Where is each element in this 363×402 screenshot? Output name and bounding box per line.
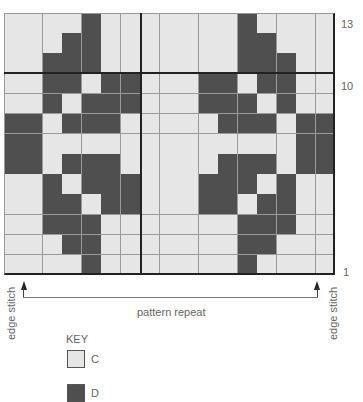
chart-cell — [4, 235, 24, 256]
chart-cell — [160, 73, 180, 94]
chart-cell — [238, 194, 258, 215]
chart-cell — [296, 154, 316, 175]
chart-cell — [121, 154, 141, 175]
chart-cell — [257, 255, 277, 276]
chart-cell — [316, 174, 336, 195]
chart-cell — [4, 13, 24, 34]
chart-cell — [23, 215, 43, 236]
chart-cell — [62, 53, 82, 74]
chart-cell — [82, 255, 102, 276]
chart-cell — [160, 33, 180, 54]
key-title: KEY — [66, 333, 88, 345]
chart-cell — [82, 235, 102, 256]
chart-cell — [140, 53, 160, 74]
chart-cell — [43, 194, 63, 215]
chart-cell — [4, 215, 24, 236]
chart-cell — [43, 33, 63, 54]
chart-cell — [23, 94, 43, 115]
chart-cell — [179, 134, 199, 155]
chart-cell — [82, 174, 102, 195]
chart-cell — [218, 255, 238, 276]
chart-cell — [277, 53, 297, 74]
key-swatch-c — [67, 350, 85, 368]
chart-cell — [238, 33, 258, 54]
chart-cell — [316, 13, 336, 34]
chart-cell — [218, 94, 238, 115]
chart-cell — [140, 194, 160, 215]
key-swatch-d — [67, 384, 85, 402]
chart-cell — [218, 154, 238, 175]
arrow-up-icon — [21, 281, 27, 290]
chart-cell — [296, 174, 316, 195]
chart-cell — [238, 94, 258, 115]
chart-cell — [218, 53, 238, 74]
chart-cell — [296, 33, 316, 54]
chart-cell — [238, 13, 258, 34]
chart-cell — [43, 154, 63, 175]
chart-cell — [277, 114, 297, 135]
chart-cell — [199, 114, 219, 135]
chart-cell — [296, 53, 316, 74]
chart-cell — [140, 134, 160, 155]
chart-cell — [296, 134, 316, 155]
chart-cell — [23, 194, 43, 215]
chart-cell — [121, 194, 141, 215]
chart-cell — [140, 114, 160, 135]
chart-cell — [316, 114, 336, 135]
chart-cell — [43, 13, 63, 34]
chart-cell — [4, 255, 24, 276]
chart-cell — [82, 215, 102, 236]
chart-cell — [140, 235, 160, 256]
chart-cell — [238, 255, 258, 276]
edge-stitch-left-label: edge stitch — [5, 287, 17, 340]
chart-cell — [218, 174, 238, 195]
chart-cell — [257, 73, 277, 94]
chart-cell — [43, 235, 63, 256]
chart-cell — [199, 194, 219, 215]
chart-cell — [121, 73, 141, 94]
chart-cell — [179, 53, 199, 74]
chart-cell — [238, 235, 258, 256]
chart-cell — [23, 235, 43, 256]
chart-cell — [101, 53, 121, 74]
chart-cell — [101, 73, 121, 94]
chart-cell — [296, 215, 316, 236]
chart-cell — [316, 33, 336, 54]
chart-cell — [62, 13, 82, 34]
chart-cell — [199, 154, 219, 175]
chart-cell — [160, 255, 180, 276]
chart-cell — [101, 134, 121, 155]
chart-cell — [160, 154, 180, 175]
chart-cell — [257, 194, 277, 215]
chart-cell — [179, 154, 199, 175]
row-number-13: 13 — [341, 18, 353, 30]
chart-cell — [316, 255, 336, 276]
chart-cell — [277, 154, 297, 175]
chart-cell — [4, 94, 24, 115]
chart-cell — [199, 255, 219, 276]
chart-cell — [296, 73, 316, 94]
chart-cell — [296, 114, 316, 135]
chart-cell — [4, 114, 24, 135]
chart-cell — [121, 174, 141, 195]
chart-cell — [277, 194, 297, 215]
row-divider-horizontal — [4, 72, 335, 74]
chart-cell — [43, 174, 63, 195]
chart-cell — [160, 94, 180, 115]
chart-cell — [277, 134, 297, 155]
chart-cell — [140, 94, 160, 115]
chart-cell — [23, 33, 43, 54]
chart-cell — [82, 13, 102, 34]
chart-cell — [62, 194, 82, 215]
chart-cell — [179, 13, 199, 34]
chart-cell — [82, 94, 102, 115]
chart-cell — [121, 33, 141, 54]
chart-cell — [218, 194, 238, 215]
chart-cell — [238, 215, 258, 236]
chart-cell — [43, 114, 63, 135]
chart-cell — [199, 235, 219, 256]
chart-cell — [121, 53, 141, 74]
chart-cell — [101, 114, 121, 135]
chart-cell — [257, 174, 277, 195]
chart-cell — [296, 235, 316, 256]
